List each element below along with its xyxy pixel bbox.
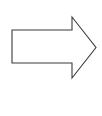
diagram-canvas xyxy=(0,0,102,116)
arrow-diagram xyxy=(0,0,102,116)
